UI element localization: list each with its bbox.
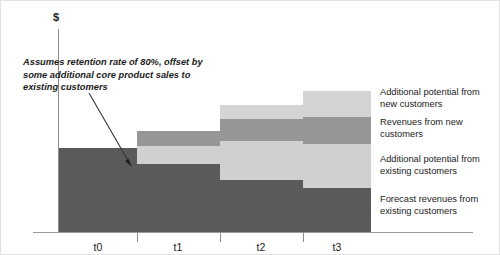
bar-segment: [303, 188, 371, 232]
bar-segment: [220, 180, 303, 232]
x-axis-tick-label-t1: t1: [158, 241, 198, 253]
bar-segment: [303, 144, 371, 188]
x-axis-tick: [303, 233, 304, 242]
bar-segment: [59, 148, 137, 232]
bar-segment: [137, 146, 220, 164]
annotation-text: Assumes retention rate of 80%, offset by…: [23, 56, 219, 94]
bar-segment: [303, 117, 371, 144]
x-axis-line: [33, 232, 473, 233]
bar-segment: [137, 131, 220, 146]
bar-segment: [303, 91, 371, 117]
x-axis-tick-label-t2: t2: [241, 241, 281, 253]
x-axis-tick: [220, 233, 221, 242]
chart-canvas: $ t0t1t2t3 Assumes retention rate of 80%…: [0, 0, 500, 255]
legend-item: Revenues from new customers: [380, 116, 498, 141]
bar-segment: [220, 105, 303, 119]
legend-item: Additional potential from new customers: [380, 86, 498, 111]
bar-segment: [137, 164, 220, 232]
legend-item: Forecast revenues from existing customer…: [380, 193, 498, 218]
y-axis-label: $: [53, 11, 59, 23]
x-axis-tick-label-t0: t0: [78, 241, 118, 253]
bar-segment: [220, 119, 303, 141]
x-axis-tick: [137, 233, 138, 242]
bar-segment: [220, 141, 303, 180]
legend-item: Additional potential from existing custo…: [380, 153, 498, 178]
x-axis-tick-label-t3: t3: [317, 241, 357, 253]
